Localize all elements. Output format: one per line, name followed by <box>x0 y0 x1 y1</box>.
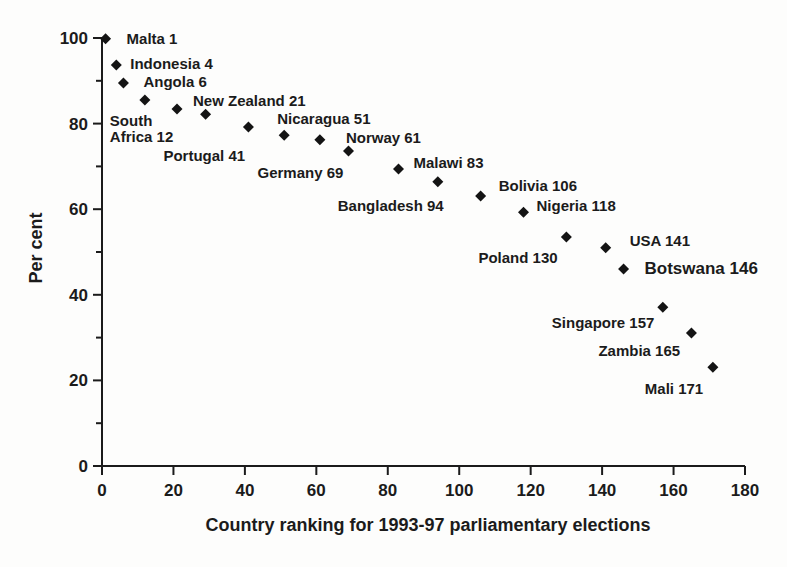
data-point-portugal: Portugal 41 <box>163 122 254 165</box>
point-label-angola: Angola 6 <box>143 73 206 90</box>
point-label-south-africa: SouthAfrica 12 <box>110 112 173 145</box>
point-label-germany: Germany 69 <box>257 164 343 181</box>
data-point-norway: Norway 61 <box>314 129 421 146</box>
point-label-new-zealand: New Zealand 21 <box>193 92 306 109</box>
x-tick-label: 180 <box>731 481 759 500</box>
data-point-malawi: Malawi 83 <box>393 154 484 175</box>
y-tick-label: 20 <box>69 371 88 390</box>
point-label-mali: Mali 171 <box>645 380 703 397</box>
data-point-botswana: Botswana 146 <box>618 259 758 278</box>
data-point-angola: Angola 6 <box>118 73 207 90</box>
point-label-usa: USA 141 <box>630 232 690 249</box>
diamond-marker <box>343 145 354 156</box>
data-point-nigeria: Nigeria 118 <box>518 197 616 218</box>
diamond-marker <box>561 232 572 243</box>
diamond-marker <box>432 176 443 187</box>
diamond-marker <box>475 190 486 201</box>
diamond-marker <box>314 134 325 145</box>
plot-area: 020406080100120140160180020406080100Malt… <box>60 29 760 500</box>
y-tick-label: 80 <box>69 115 88 134</box>
diamond-marker <box>139 95 150 106</box>
diamond-marker <box>279 130 290 141</box>
x-tick-label: 60 <box>307 481 326 500</box>
point-label-poland: Poland 130 <box>478 249 557 266</box>
point-label-nigeria: Nigeria 118 <box>537 197 616 214</box>
diamond-marker <box>707 362 718 373</box>
data-point-poland: Poland 130 <box>478 232 572 266</box>
point-label-portugal: Portugal 41 <box>163 147 245 164</box>
data-point-south-africa: SouthAfrica 12 <box>110 95 173 146</box>
point-label-bolivia: Bolivia 106 <box>499 177 577 194</box>
data-point-usa: USA 141 <box>600 232 690 254</box>
data-point-unlabeled <box>200 109 211 120</box>
y-tick-label: 40 <box>69 286 88 305</box>
x-tick-label: 160 <box>659 481 687 500</box>
diamond-marker <box>518 207 529 218</box>
data-point-malta: Malta 1 <box>100 30 177 47</box>
data-point-germany: Germany 69 <box>257 145 354 181</box>
y-tick-label: 0 <box>79 457 88 476</box>
y-tick-label: 100 <box>60 29 88 48</box>
point-label-indonesia: Indonesia 4 <box>130 55 213 72</box>
diamond-marker <box>657 302 668 313</box>
diamond-marker <box>200 109 211 120</box>
diamond-marker <box>111 59 122 70</box>
diamond-marker <box>686 327 697 338</box>
diamond-marker <box>118 77 129 88</box>
point-label-malta: Malta 1 <box>127 30 178 47</box>
point-label-bangladesh: Bangladesh 94 <box>338 197 445 214</box>
x-tick-label: 120 <box>516 481 544 500</box>
diamond-marker <box>618 264 629 275</box>
voter-turnout-ranking-figure: Per cent Country ranking for 1993-97 par… <box>0 0 787 567</box>
diamond-marker <box>172 104 183 115</box>
x-tick-label: 20 <box>164 481 183 500</box>
point-label-malawi: Malawi 83 <box>413 154 483 171</box>
y-axis-title: Per cent <box>26 212 46 283</box>
point-label-norway: Norway 61 <box>346 129 421 146</box>
x-tick-label: 80 <box>378 481 397 500</box>
x-tick-label: 40 <box>235 481 254 500</box>
x-tick-label: 140 <box>588 481 616 500</box>
data-point-indonesia: Indonesia 4 <box>111 55 214 72</box>
scatter-chart: Per cent Country ranking for 1993-97 par… <box>0 0 787 567</box>
x-tick-label: 100 <box>445 481 473 500</box>
point-label-nicaragua: Nicaragua 51 <box>277 110 370 127</box>
data-point-zambia: Zambia 165 <box>598 327 697 359</box>
data-point-mali: Mali 171 <box>645 362 719 398</box>
x-tick-label: 0 <box>97 481 106 500</box>
data-point-bangladesh: Bangladesh 94 <box>338 176 445 214</box>
y-tick-label: 60 <box>69 200 88 219</box>
diamond-marker <box>600 242 611 253</box>
data-point-singapore: Singapore 157 <box>552 302 669 332</box>
point-label-botswana: Botswana 146 <box>645 259 758 278</box>
diamond-marker <box>243 122 254 133</box>
point-label-singapore: Singapore 157 <box>552 314 655 331</box>
x-axis-title: Country ranking for 1993-97 parliamentar… <box>205 515 650 535</box>
diamond-marker <box>393 163 404 174</box>
point-label-zambia: Zambia 165 <box>598 342 680 359</box>
